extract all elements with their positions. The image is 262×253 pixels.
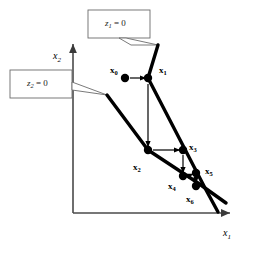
point-label-x1: x1 bbox=[159, 66, 167, 75]
point-label-x0: x0 bbox=[110, 66, 118, 75]
point-label-x5: x5 bbox=[205, 167, 213, 176]
callout-z1-label: z1 = 0 bbox=[105, 19, 126, 28]
point-label-x5-subscript: 5 bbox=[210, 170, 213, 177]
callout-z2-label: z2 = 0 bbox=[27, 79, 48, 88]
callout-z1-equals: = 0 bbox=[112, 18, 126, 28]
y-axis-label-subscript: 2 bbox=[57, 56, 61, 64]
callout-z1-subscript: 1 bbox=[109, 22, 112, 29]
point-marker-x5 bbox=[192, 169, 200, 177]
point-label-x6: x6 bbox=[186, 195, 194, 204]
point-label-x4-text: x bbox=[168, 181, 173, 191]
point-marker-x6 bbox=[192, 182, 200, 190]
figure-canvas bbox=[0, 0, 262, 253]
x-axis-label: x1 bbox=[223, 228, 231, 238]
point-label-x4-subscript: 4 bbox=[173, 185, 176, 192]
callout-z1-leader bbox=[119, 38, 158, 45]
x-axis-label-subscript: 1 bbox=[227, 233, 231, 241]
point-label-x3-text: x bbox=[189, 142, 194, 152]
point-label-x2-text: x bbox=[133, 162, 138, 172]
callout-z2-subscript: 2 bbox=[31, 82, 34, 89]
point-label-x2: x2 bbox=[133, 163, 141, 172]
point-label-x1-subscript: 1 bbox=[164, 69, 167, 76]
point-marker-x2 bbox=[144, 146, 152, 154]
point-label-x0-text: x bbox=[110, 65, 115, 75]
callout-z1-var: z bbox=[105, 18, 109, 28]
point-marker-x4 bbox=[179, 172, 187, 180]
point-label-x2-subscript: 2 bbox=[138, 166, 141, 173]
callout-z2-leader bbox=[72, 82, 107, 95]
point-marker-x1 bbox=[144, 74, 152, 82]
figure-root: z1 = 0 z2 = 0 x2 x1 x0 x1 x2 x3 x4 x5 x6 bbox=[0, 0, 262, 253]
callout-z2-group bbox=[10, 70, 107, 98]
point-marker-x0 bbox=[121, 74, 129, 82]
point-marker-x3 bbox=[179, 146, 187, 154]
point-label-x4: x4 bbox=[168, 182, 176, 191]
point-label-x5-text: x bbox=[205, 166, 210, 176]
point-label-x3: x3 bbox=[189, 143, 197, 152]
point-label-x6-text: x bbox=[186, 194, 191, 204]
point-label-x3-subscript: 3 bbox=[194, 146, 197, 153]
y-axis-label: x2 bbox=[53, 51, 61, 61]
point-label-x0-subscript: 0 bbox=[115, 69, 118, 76]
callout-z2-equals: = 0 bbox=[34, 78, 48, 88]
callout-z2-var: z bbox=[27, 78, 31, 88]
point-label-x1-text: x bbox=[159, 65, 164, 75]
point-label-x6-subscript: 6 bbox=[191, 198, 194, 205]
